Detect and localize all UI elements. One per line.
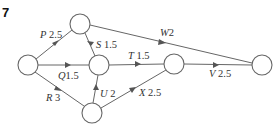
node-right <box>164 54 184 74</box>
arrow-s-icon <box>87 41 94 46</box>
label-s: S 1.5 <box>96 39 117 50</box>
arrow-r-icon <box>54 86 62 91</box>
label-p: P 2.5 <box>39 29 62 40</box>
node-start <box>18 55 38 75</box>
arrowheads <box>52 39 219 93</box>
label-u: U 2 <box>100 88 115 99</box>
arrow-w-icon <box>158 39 166 45</box>
activity-network-diagram: P 2.5 Q1.5 R 3 S 1.5 W2 T 1.5 U 2 X 2.5 … <box>0 0 278 129</box>
label-w: W2 <box>160 27 174 38</box>
node-end <box>252 55 272 75</box>
label-t: T 1.5 <box>128 50 150 61</box>
label-v: V 2.5 <box>209 68 231 79</box>
label-r: R 3 <box>45 92 60 103</box>
arrow-t-icon <box>135 61 141 67</box>
node-top <box>70 14 90 34</box>
arrow-q-icon <box>65 62 71 68</box>
node-bottom <box>82 103 102 123</box>
label-x: X 2.5 <box>138 87 161 98</box>
arrow-x-icon <box>129 87 136 93</box>
arrow-u-icon <box>93 84 99 90</box>
node-mid <box>89 55 109 75</box>
label-q: Q1.5 <box>58 70 79 81</box>
